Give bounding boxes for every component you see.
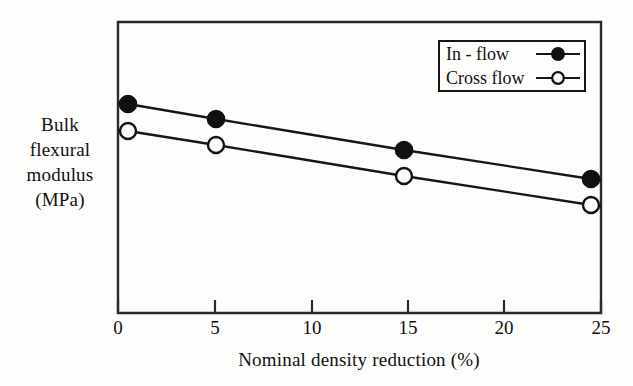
legend-marker-filled-circle-icon [536,47,580,61]
data-point-cross-flow-2 [396,168,412,184]
data-point-in-flow-0 [120,96,137,113]
y-axis-label-line-2: flexural [8,137,112,162]
data-point-in-flow-3 [583,171,600,188]
data-point-cross-flow-1 [208,137,224,153]
legend: In - flow Cross flow [438,40,586,92]
data-point-in-flow-1 [208,111,225,128]
y-axis-label-line-3: modulus [8,162,112,187]
data-point-cross-flow-3 [583,197,599,213]
legend-item-cross-flow: Cross flow [440,66,584,90]
x-tick-label-3: 15 [388,317,428,339]
x-axis-title: Nominal density reduction (%) [117,349,601,371]
y-axis-label-line-1: Bulk [8,112,112,137]
legend-label-in-flow: In - flow [446,44,509,65]
y-axis-label: Bulk flexural modulus (MPa) [8,112,112,212]
x-tick-label-5: 25 [581,317,621,339]
y-axis-label-line-4: (MPa) [8,187,112,212]
legend-label-cross-flow: Cross flow [446,68,525,89]
legend-marker-open-circle-icon [536,71,580,85]
x-axis-ticks [118,300,601,313]
data-point-cross-flow-0 [120,123,136,139]
x-tick-label-4: 20 [484,317,524,339]
data-point-in-flow-2 [396,142,413,159]
x-tick-label-2: 10 [292,317,332,339]
chart-figure: Bulk flexural modulus (MPa) 0 5 10 15 20… [0,0,633,386]
x-tick-label-1: 5 [195,317,235,339]
series-cross-flow [118,123,601,213]
x-tick-label-0: 0 [98,317,138,339]
legend-item-in-flow: In - flow [440,42,584,66]
